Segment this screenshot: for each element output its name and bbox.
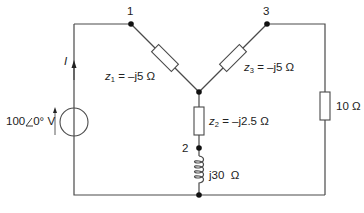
resistor-10-icon [320, 92, 330, 120]
source-unit: V [47, 115, 55, 127]
z1-sub: 1 [111, 75, 115, 84]
node-bottom [196, 192, 202, 198]
source-angle: 0° [33, 115, 44, 127]
z1-label: z1 = –j5 Ω [105, 71, 155, 84]
node-2-label: 2 [182, 143, 188, 155]
node-2 [196, 145, 202, 151]
source-magnitude: 100 [6, 115, 25, 127]
angle-symbol [25, 116, 33, 125]
source-label: 1000° V [6, 116, 55, 128]
z1-value: = –j5 Ω [118, 70, 155, 82]
voltage-arrow-icon [53, 107, 57, 113]
z3-resistor-icon [220, 45, 247, 72]
z2-label: z2 = –j2.5 Ω [209, 116, 269, 129]
inductor-label: j30 Ω [209, 170, 239, 182]
resistor-10-label: 10 Ω [336, 101, 361, 113]
z3-label: z3 = –j5 Ω [244, 62, 294, 75]
inductor-icon [195, 156, 204, 186]
node-center [196, 89, 202, 95]
node-1-label: 1 [127, 6, 133, 18]
wire-left-top [74, 24, 131, 108]
node-3 [264, 21, 270, 27]
z2-value: = –j2.5 Ω [222, 115, 269, 127]
node-3-label: 3 [263, 6, 269, 18]
current-label: I [64, 56, 67, 68]
node-1 [128, 21, 134, 27]
z2-sub: 2 [215, 120, 219, 129]
z3-sub: 3 [250, 66, 254, 75]
z1-resistor-icon [152, 45, 179, 72]
wire-right [267, 24, 325, 195]
circuit-diagram [0, 0, 364, 213]
z3-value: = –j5 Ω [257, 61, 294, 73]
current-arrow-icon [72, 60, 77, 68]
z2-resistor-icon [194, 107, 204, 135]
